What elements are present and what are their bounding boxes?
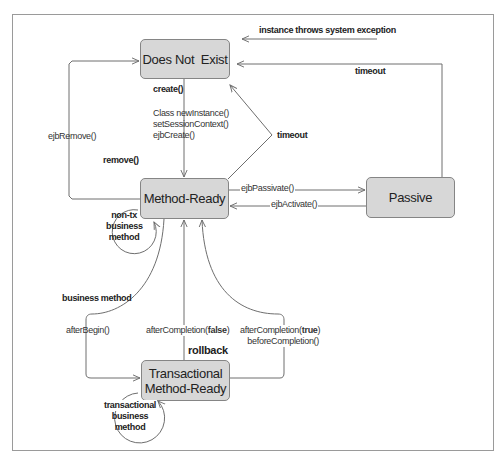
rollback-label: rollback — [188, 345, 228, 356]
state-label: Does Not Exist — [142, 52, 227, 67]
state-label: Passive — [389, 190, 432, 205]
state-does-not-exist: Does Not Exist — [140, 39, 230, 79]
state-label-line1: Transactional — [149, 366, 223, 381]
system-exception-label: instance throws system exception — [259, 25, 396, 36]
state-transactional-method-ready: Transactional Method-Ready — [141, 360, 230, 401]
remove-label: remove() — [103, 155, 139, 166]
timeout-ready-arrow — [228, 85, 272, 179]
ejb-passivate-label: ejbPassivate() — [240, 183, 295, 194]
after-completion-false-label: afterCompletion(false) — [146, 325, 229, 336]
after-begin-label: afterBegin() — [66, 325, 109, 336]
ejb-remove-arrow — [69, 61, 140, 199]
business-method-label: business method — [62, 293, 132, 304]
transition-arrows — [0, 0, 502, 459]
timeout-passive-arrow — [237, 64, 442, 177]
diagram-canvas: Does Not Exist Method-Ready Passive Tran… — [0, 0, 502, 459]
state-method-ready: Method-Ready — [140, 178, 229, 219]
before-completion-label: beforeCompletion() — [240, 336, 319, 347]
ejb-activate-label: ejbActivate() — [270, 199, 318, 210]
after-completion-true-label: afterCompletion(true) — [240, 325, 319, 336]
tx-loop-label: transactional business method — [103, 400, 157, 433]
timeout-passive-label: timeout — [355, 66, 385, 77]
create-call-2: setSessionContext() — [153, 119, 228, 130]
state-label-line2: Method-Ready — [145, 381, 227, 396]
create-call-1: Class newInstance() — [153, 108, 229, 119]
ejb-remove-label: ejbRemove() — [48, 131, 96, 142]
state-label: Method-Ready — [144, 191, 226, 206]
timeout-ready-label: timeout — [277, 130, 307, 141]
non-tx-loop-label: non-tx business method — [106, 210, 142, 243]
create-call-3: ejbCreate() — [153, 130, 195, 141]
create-label: create() — [153, 84, 183, 95]
state-passive: Passive — [366, 177, 455, 218]
